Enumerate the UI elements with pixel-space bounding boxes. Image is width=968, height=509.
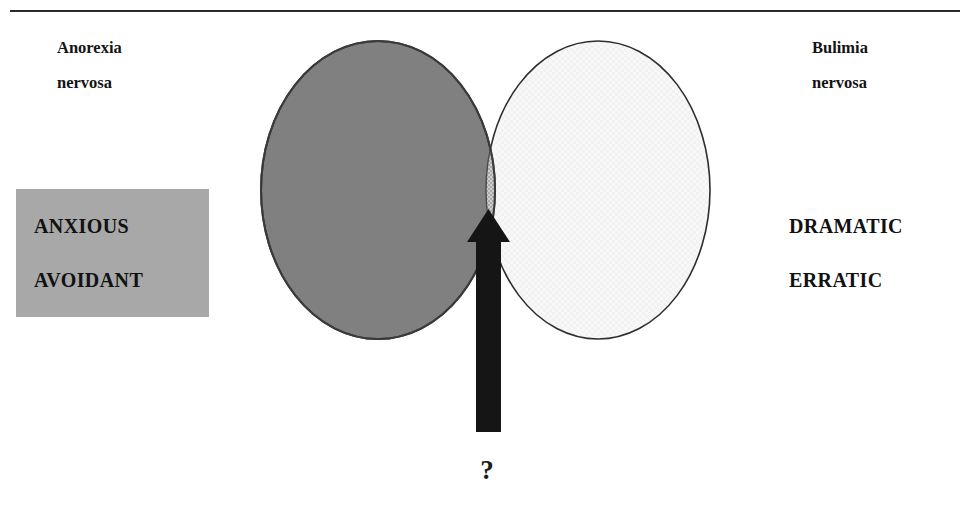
question-mark-annotation: ? [462, 455, 512, 486]
label-anorexia-nervosa: Anorexia nervosa [57, 30, 122, 100]
venn-circle-anorexia [261, 41, 495, 339]
label-anorexia-line-1: Anorexia [57, 30, 122, 65]
cluster-b-box: DRAMATIC ERRATIC [789, 189, 968, 317]
cluster-a-line-1: ANXIOUS [34, 199, 209, 253]
label-bulimia-line-1: Bulimia [812, 30, 868, 65]
cluster-a-line-2: AVOIDANT [34, 253, 209, 307]
cluster-b-line-1: DRAMATIC [789, 199, 968, 253]
label-bulimia-line-2: nervosa [812, 65, 868, 100]
diagram-page: Anorexia nervosa Bulimia nervosa ANXIOUS… [0, 0, 968, 509]
cluster-b-line-2: ERRATIC [789, 253, 968, 307]
label-anorexia-line-2: nervosa [57, 65, 122, 100]
label-bulimia-nervosa: Bulimia nervosa [812, 30, 868, 100]
cluster-a-box: ANXIOUS AVOIDANT [16, 189, 209, 317]
venn-circle-bulimia [486, 41, 710, 339]
